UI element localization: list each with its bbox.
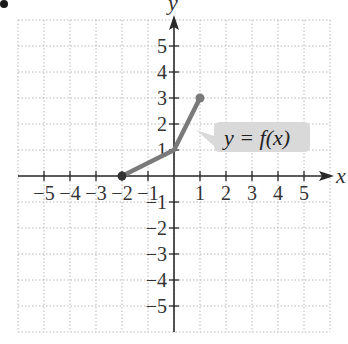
y-tick-label: −4 [146,269,167,291]
x-tick-label: 4 [273,182,283,204]
y-tick-label: −2 [146,217,167,239]
end-point-icon [196,94,205,103]
x-tick-label: 5 [299,182,309,204]
x-tick-label: 1 [195,182,205,204]
x-tick-label: −5 [33,182,54,204]
function-line [122,98,200,176]
x-tick-label: 2 [221,182,231,204]
y-tick-label: 3 [157,87,167,109]
x-tick-label: −2 [111,182,132,204]
x-axis-label: x [335,163,346,188]
callout-label: y = f(x) [222,125,290,150]
y-tick-label: −1 [146,191,167,213]
y-tick-label: 5 [157,35,167,57]
y-axis-label: y [166,0,178,15]
graph: −5−4−3−2−112345−5−4−3−2−112345 x y y = f… [0,0,348,344]
axes [18,15,334,332]
y-tick-label: −5 [146,295,167,317]
x-tick-label: 3 [247,182,257,204]
x-tick-label: −4 [59,182,80,204]
x-tick-label: −3 [85,182,106,204]
y-tick-label: 4 [157,61,167,83]
function-callout: y = f(x) [196,122,310,152]
y-tick-label: 2 [157,113,167,135]
y-tick-label: −3 [146,243,167,265]
start-point-icon [118,172,127,181]
